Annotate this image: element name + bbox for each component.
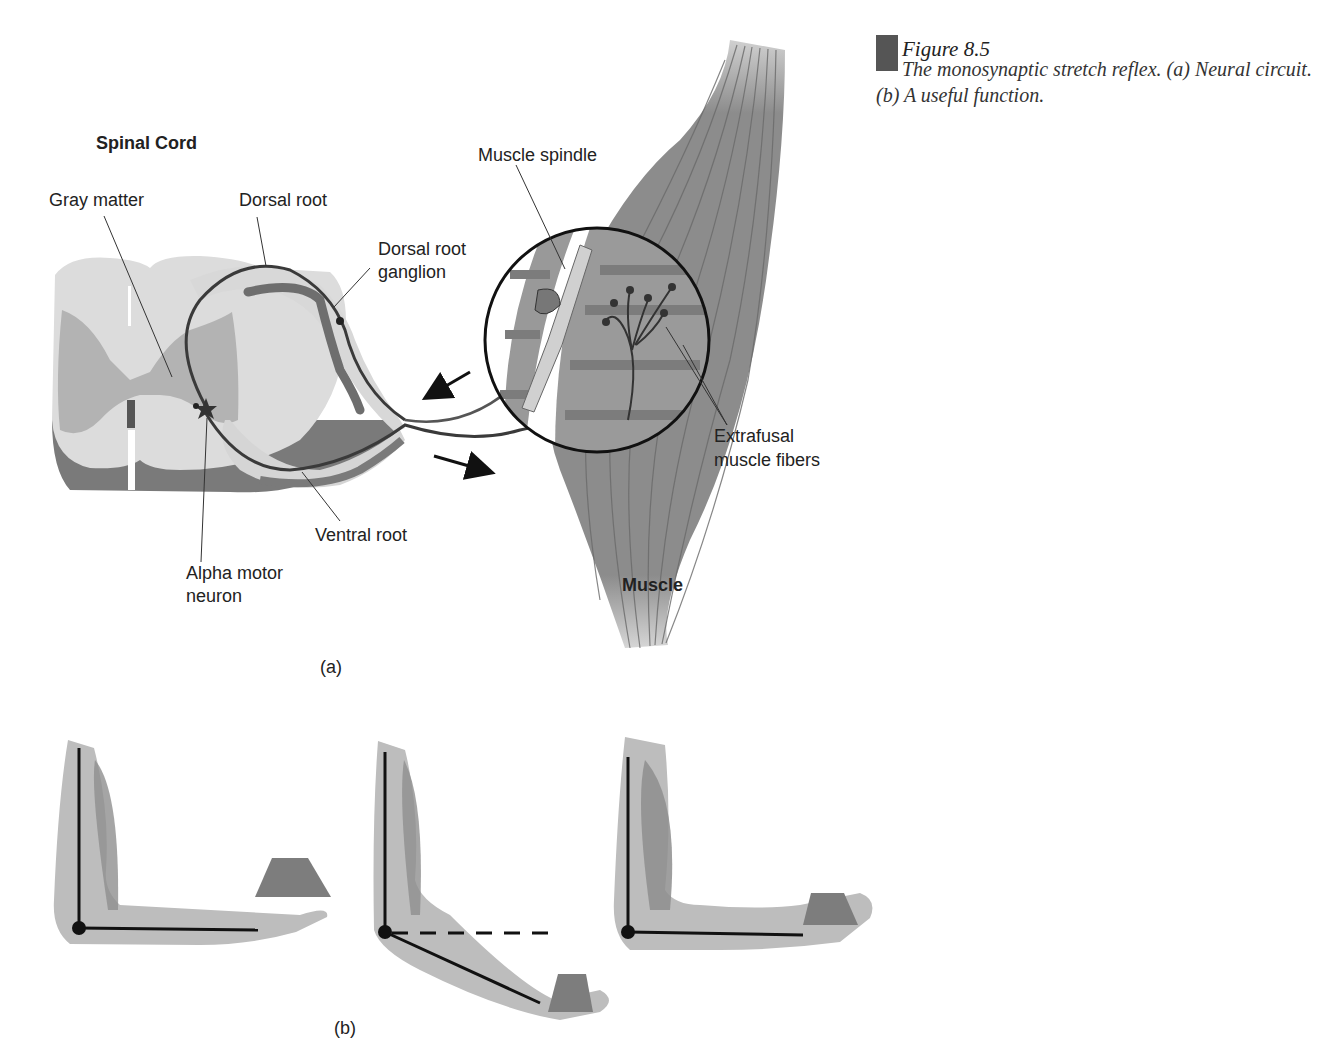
afferent-arrow	[427, 372, 470, 397]
panel-label-a: (a)	[320, 656, 342, 678]
label-muscle-spindle: Muscle spindle	[478, 144, 597, 166]
label-alpha-motor-line1: Alpha motor	[186, 562, 283, 584]
figure-8-5: Spinal Cord Gray matter Dorsal root Dors…	[0, 0, 1327, 1064]
label-gray-matter: Gray matter	[49, 189, 144, 211]
label-extrafusal-line1: Extrafusal	[714, 425, 794, 447]
arm-state-3	[614, 737, 873, 950]
label-drg-line1: Dorsal root	[378, 238, 466, 260]
label-ventral-root: Ventral root	[315, 524, 407, 546]
caption-text: The monosynaptic stretch reflex. (a) Neu…	[876, 56, 1327, 108]
arm-state-1	[54, 740, 331, 945]
label-extrafusal-line2: muscle fibers	[714, 449, 820, 471]
label-drg-line2: ganglion	[378, 261, 446, 283]
efferent-arrow	[434, 456, 490, 472]
figure-illustration	[0, 0, 1327, 1064]
muscle-illustration	[460, 40, 785, 648]
panel-label-b: (b)	[334, 1017, 356, 1039]
arm-state-2	[374, 741, 610, 1020]
label-spinal-cord: Spinal Cord	[96, 132, 197, 154]
label-alpha-motor-line2: neuron	[186, 585, 242, 607]
label-dorsal-root: Dorsal root	[239, 189, 327, 211]
label-muscle: Muscle	[622, 574, 683, 596]
